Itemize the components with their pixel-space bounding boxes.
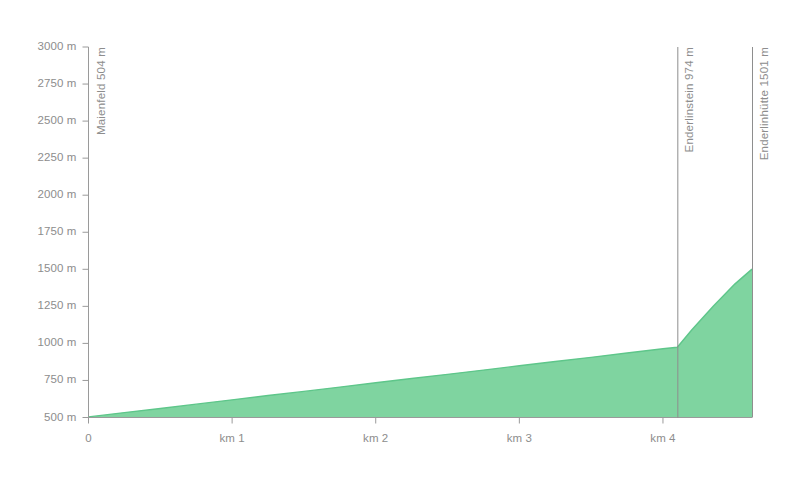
y-axis-tick-label: 500 m bbox=[0, 411, 77, 423]
elevation-area-fill bbox=[89, 269, 753, 417]
waypoint-label: Enderlinstein 974 m bbox=[683, 47, 695, 152]
y-axis-tick-label: 1750 m bbox=[0, 225, 77, 237]
waypoint-label: Maienfeld 504 m bbox=[95, 47, 107, 135]
y-axis-tick-label: 1500 m bbox=[0, 262, 77, 274]
x-axis-tick-label: km 2 bbox=[326, 432, 426, 444]
y-axis-tick-label: 750 m bbox=[0, 373, 77, 385]
x-axis-tick-label: km 3 bbox=[469, 432, 569, 444]
waypoint-label: Enderlinhütte 1501 m bbox=[758, 47, 770, 160]
y-axis-tick-label: 1250 m bbox=[0, 299, 77, 311]
y-axis-tick-label: 2750 m bbox=[0, 77, 77, 89]
y-axis-tick-label: 2000 m bbox=[0, 188, 77, 200]
y-axis-ticks bbox=[83, 47, 89, 418]
y-axis-tick-label: 2500 m bbox=[0, 114, 77, 126]
x-axis-tick-label: km 1 bbox=[182, 432, 282, 444]
y-axis-tick-label: 1000 m bbox=[0, 336, 77, 348]
x-axis-tick-label: 0 bbox=[39, 432, 139, 444]
x-axis-tick-label: km 4 bbox=[613, 432, 713, 444]
x-axis-ticks bbox=[89, 418, 663, 424]
elevation-profile-chart: 3000 m2750 m2500 m2250 m2000 m1750 m1500… bbox=[0, 0, 808, 486]
y-axis-tick-label: 2250 m bbox=[0, 151, 77, 163]
y-axis-tick-label: 3000 m bbox=[0, 40, 77, 52]
